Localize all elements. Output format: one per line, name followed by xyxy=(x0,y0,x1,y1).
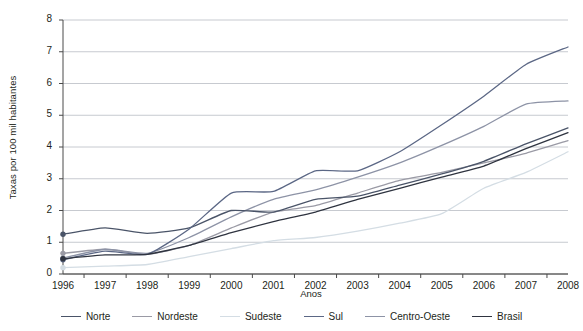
legend-item-centro-oeste[interactable]: Centro-Oeste xyxy=(365,311,450,322)
legend-item-norte[interactable]: Norte xyxy=(61,311,110,322)
series-marker-nordeste xyxy=(60,251,65,256)
x-axis-title: Anos xyxy=(271,288,351,299)
chart-legend: NorteNordesteSudesteSulCentro-OesteBrasi… xyxy=(0,306,583,326)
plot-area xyxy=(0,0,583,331)
legend-label: Sul xyxy=(329,311,343,322)
legend-line-icon xyxy=(61,316,81,317)
series-line-brasil xyxy=(63,133,568,259)
legend-item-sul[interactable]: Sul xyxy=(304,311,343,322)
legend-line-icon xyxy=(472,316,492,317)
series-line-sul xyxy=(63,47,568,260)
legend-line-icon xyxy=(304,316,324,317)
legend-item-sudeste[interactable]: Sudeste xyxy=(220,311,282,322)
legend-item-nordeste[interactable]: Nordeste xyxy=(132,311,198,322)
legend-label: Nordeste xyxy=(157,311,198,322)
legend-line-icon xyxy=(220,316,240,317)
legend-label: Norte xyxy=(86,311,110,322)
series-marker-norte xyxy=(60,232,65,237)
x-axis-title-text: Anos xyxy=(300,288,322,299)
series-line-norte xyxy=(63,128,568,234)
legend-item-brasil[interactable]: Brasil xyxy=(472,311,522,322)
series-line-centro-oeste xyxy=(63,101,568,258)
legend-label: Sudeste xyxy=(245,311,282,322)
line-chart: Taxas por 100 mil habitantes 01234567819… xyxy=(0,0,583,331)
legend-label: Centro-Oeste xyxy=(390,311,450,322)
series-marker-sudeste xyxy=(60,265,65,270)
legend-line-icon xyxy=(132,316,152,317)
series-line-sudeste xyxy=(63,152,568,268)
legend-label: Brasil xyxy=(497,311,522,322)
legend-line-icon xyxy=(365,316,385,317)
series-marker-brasil xyxy=(60,256,65,261)
